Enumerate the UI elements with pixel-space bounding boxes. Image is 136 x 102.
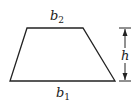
bottom-base-label: b1 <box>56 85 70 102</box>
arrow-up-icon <box>123 29 128 36</box>
top-base-label: b2 <box>50 8 64 25</box>
height-label: h <box>121 48 129 63</box>
trapezoid-diagram: b2 b1 h <box>0 0 136 102</box>
trapezoid-shape <box>10 28 115 81</box>
arrow-down-icon <box>123 73 128 80</box>
